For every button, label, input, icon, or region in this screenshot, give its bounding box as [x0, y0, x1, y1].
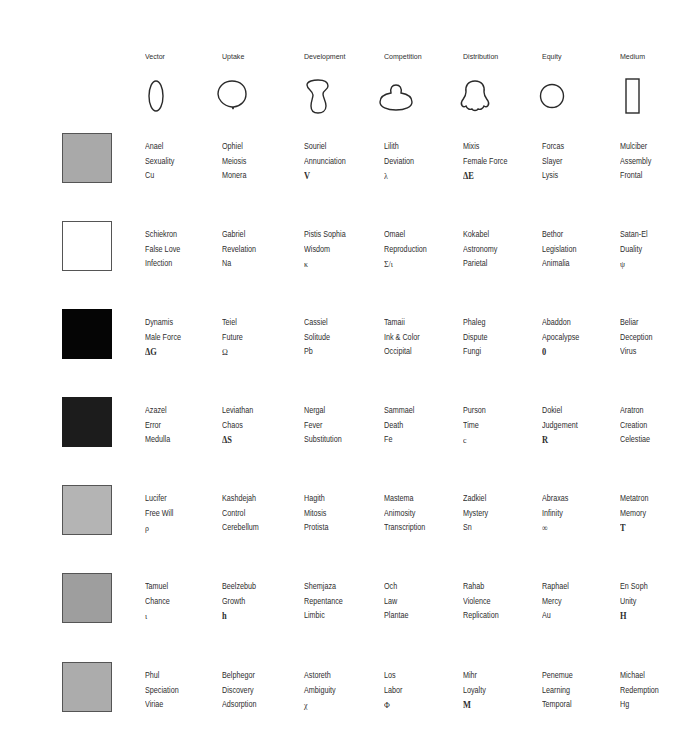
table-cell: GabrielRevelationNa [222, 228, 256, 272]
table-cell: ZadkielMysterySn [463, 492, 488, 536]
light-gray-swatch [62, 485, 112, 535]
table-cell: LosLaborΦ [384, 669, 402, 713]
cell-name: Dynamis [145, 316, 181, 331]
cell-code: Fungi [463, 345, 487, 360]
table-cell: OmaelReproductionΣ/ι [384, 228, 427, 272]
cell-name: Belphegor [222, 669, 256, 684]
cell-name: Beliar [620, 316, 652, 331]
cell-concept: Astronomy [463, 243, 497, 258]
cell-concept: Duality [620, 243, 648, 258]
cell-name: Nergal [304, 404, 342, 419]
table-cell: HagithMitosisProtista [304, 492, 328, 536]
table-cell: KokabelAstronomyParietal [463, 228, 497, 272]
cell-code: c [463, 433, 486, 448]
cell-code: Replication [463, 609, 499, 624]
table-cell: PursonTimec [463, 404, 486, 448]
cell-name: Anael [145, 140, 174, 155]
table-cell: BeliarDeceptionVirus [620, 316, 652, 360]
cell-code: Cerebellum [222, 521, 259, 536]
table-cell: LilithDeviationλ [384, 140, 414, 184]
cell-code: Transcription [384, 521, 425, 536]
cell-code: Hg [620, 698, 659, 713]
cell-code: T [620, 521, 648, 536]
cell-concept: Female Force [463, 155, 507, 170]
cell-code: χ [304, 698, 336, 713]
charcoal-swatch [62, 397, 112, 447]
table-cell: MulciberAssemblyFrontal [620, 140, 651, 184]
cell-name: Sammael [384, 404, 414, 419]
cell-name: Kashdejah [222, 492, 259, 507]
mid-gray-swatch [62, 573, 112, 623]
table-cell: RahabViolenceReplication [463, 580, 499, 624]
cell-concept: Animosity [384, 507, 425, 522]
column-header-vector: Vector [145, 52, 165, 61]
silver-gray-swatch [62, 662, 112, 712]
cell-code: κ [304, 257, 346, 272]
cell-name: Satan-El [620, 228, 648, 243]
cell-code: Frontal [620, 169, 651, 184]
table-cell: DokielJudgementR [542, 404, 578, 448]
cell-code: ΔG [145, 345, 181, 360]
cell-name: Cassiel [304, 316, 330, 331]
gray-swatch [62, 133, 112, 183]
cell-concept: Chaos [222, 419, 253, 434]
cell-concept: Deviation [384, 155, 414, 170]
cell-concept: Law [384, 595, 408, 610]
cell-concept: Free Will [145, 507, 173, 522]
tall-rectangle-icon [610, 76, 654, 116]
cell-concept: Death [384, 419, 414, 434]
cell-concept: Repentance [304, 595, 343, 610]
cell-concept: Apocalypse [542, 331, 579, 346]
cell-code: M [463, 698, 486, 713]
cell-name: Mihr [463, 669, 486, 684]
cell-code: Sn [463, 521, 488, 536]
cell-concept: Fever [304, 419, 342, 434]
table-cell: AzazelErrorMedulla [145, 404, 170, 448]
cell-name: Phul [145, 669, 179, 684]
cell-concept: Mercy [542, 595, 569, 610]
table-cell: BethorLegislationAnimalia [542, 228, 576, 272]
white-swatch [62, 221, 112, 271]
column-header-development: Development [304, 52, 345, 61]
cell-concept: Unity [620, 595, 648, 610]
table-cell: ShemjazaRepentanceLimbic [304, 580, 343, 624]
column-header-medium: Medium [620, 52, 645, 61]
cell-code: H [620, 609, 648, 624]
cell-code: Viriae [145, 698, 179, 713]
table-cell: En SophUnityH [620, 580, 648, 624]
cell-name: Forcas [542, 140, 564, 155]
table-cell: BeelzebubGrowthh [222, 580, 256, 624]
cell-name: Abaddon [542, 316, 579, 331]
cell-name: Kokabel [463, 228, 497, 243]
cell-code: h [222, 609, 256, 624]
cell-concept: Male Force [145, 331, 181, 346]
cell-code: Medulla [145, 433, 170, 448]
cell-name: Penemue [542, 669, 573, 684]
cell-code: Σ/ι [384, 257, 427, 272]
cell-code: Substitution [304, 433, 342, 448]
cell-concept: Wisdom [304, 243, 346, 258]
cell-name: Abraxas [542, 492, 568, 507]
cell-code: Infection [145, 257, 180, 272]
cell-code: Parietal [463, 257, 497, 272]
cell-concept: Infinity [542, 507, 568, 522]
cell-code: λ [384, 169, 414, 184]
cell-concept: Speciation [145, 684, 179, 699]
cell-concept: Control [222, 507, 259, 522]
cell-concept: Dispute [463, 331, 487, 346]
cell-concept: Ink & Color [384, 331, 420, 346]
table-cell: AbaddonApocalypse0 [542, 316, 579, 360]
cell-name: Phaleg [463, 316, 487, 331]
cell-code: ΔE [463, 169, 507, 184]
cell-concept: Deception [620, 331, 652, 346]
cell-name: Los [384, 669, 402, 684]
cell-concept: Solitude [304, 331, 330, 346]
cell-name: Michael [620, 669, 659, 684]
cell-name: Metatron [620, 492, 648, 507]
cell-concept: Discovery [222, 684, 256, 699]
table-cell: MastemaAnimosityTranscription [384, 492, 425, 536]
cell-code: 0 [542, 345, 579, 360]
cell-code: Adsorption [222, 698, 256, 713]
table-cell: DynamisMale ForceΔG [145, 316, 181, 360]
cell-concept: Mystery [463, 507, 488, 522]
